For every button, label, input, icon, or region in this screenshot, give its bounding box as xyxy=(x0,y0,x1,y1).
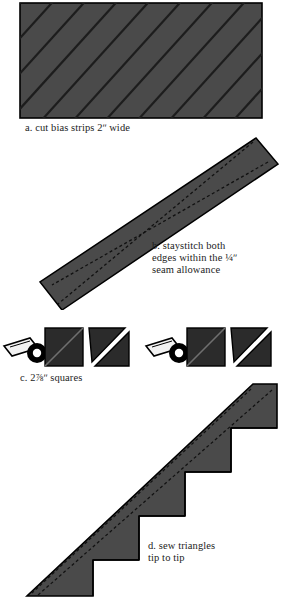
split-square-2 xyxy=(231,328,271,366)
rotary-cutter-icon-2 xyxy=(146,338,189,363)
caption-step-d: d. sew triangles tip to tip xyxy=(148,540,215,564)
figure-cut-squares xyxy=(0,320,281,378)
figure-bias-strip-rectangle xyxy=(0,0,281,122)
figure-staystitched-strip xyxy=(0,130,281,310)
caption-step-b: b. staystitch both edges within the ¼ʺ s… xyxy=(152,240,237,277)
illustration-canvas: a. cut bias strips 2ʺ wide b. staystitch… xyxy=(0,0,281,603)
figure-triangle-staircase xyxy=(0,382,281,603)
rotary-cutter-icon-1 xyxy=(4,338,47,363)
split-square-1 xyxy=(89,328,129,366)
fabric-rectangle xyxy=(20,3,262,118)
